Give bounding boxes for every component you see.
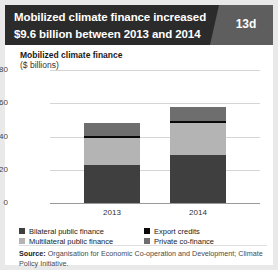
- x-axis-tick-label: 2014: [158, 208, 238, 217]
- gridline: [50, 103, 260, 104]
- title-line-2: $9.6 billion between 2013 and 2014: [14, 26, 219, 43]
- legend-row: Bilateral public financeExport credits: [19, 227, 265, 237]
- bar-segment: [84, 165, 140, 203]
- chart-subtitle: Mobilized climate finance: [20, 50, 123, 60]
- chart-legend: Bilateral public financeExport creditsMu…: [19, 227, 265, 247]
- bar-segment: [170, 107, 226, 121]
- gridline: [50, 70, 260, 71]
- bar-segment: [170, 123, 226, 155]
- y-axis-tick-label: 40: [0, 132, 8, 141]
- source-note: Source: Organisation for Economic Co-ope…: [19, 249, 267, 268]
- legend-item[interactable]: Export credits: [144, 227, 200, 237]
- figure-number-label: 13d: [219, 17, 273, 31]
- chart-header: Mobilized climate finance increased $9.6…: [5, 5, 273, 45]
- legend-swatch: [19, 228, 25, 234]
- bar-segment: [84, 123, 140, 135]
- legend-item[interactable]: Bilateral public finance: [19, 227, 144, 237]
- chart-units-label: ($ billions): [20, 60, 59, 70]
- y-axis-tick-label: 80: [0, 65, 8, 74]
- legend-label: Bilateral public finance: [29, 227, 104, 237]
- bar-2014: [170, 107, 226, 203]
- bar-segment: [84, 138, 140, 165]
- gridline: [50, 170, 260, 171]
- source-text: Organisation for Economic Co-operation a…: [19, 249, 263, 268]
- legend-label: Export credits: [154, 227, 200, 237]
- y-axis-tick-label: 60: [0, 98, 8, 107]
- bar-2013: [84, 123, 140, 203]
- figure-number-badge: 13d: [219, 5, 273, 45]
- y-axis-tick-label: 0: [0, 198, 8, 207]
- x-axis-tick-label: 2013: [72, 208, 152, 217]
- plot-area: 020406080: [50, 70, 260, 203]
- legend-swatch: [19, 238, 25, 244]
- legend-swatch: [144, 238, 150, 244]
- legend-swatch: [144, 228, 150, 234]
- figure-card: Mobilized climate finance increased $9.6…: [5, 5, 273, 265]
- gridline: [50, 137, 260, 138]
- source-label: Source:: [19, 249, 46, 258]
- bar-segment: [170, 155, 226, 203]
- y-axis-tick-label: 20: [0, 165, 8, 174]
- divider: [19, 245, 267, 246]
- axis-baseline: [50, 203, 260, 204]
- title-line-1: Mobilized climate finance increased: [14, 11, 206, 23]
- page-title: Mobilized climate finance increased $9.6…: [14, 9, 219, 42]
